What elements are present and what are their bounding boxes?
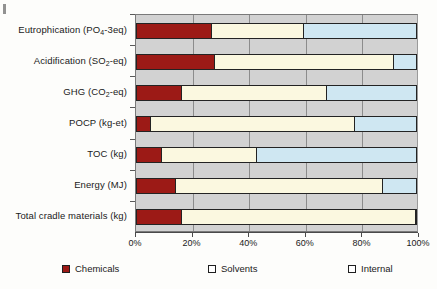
stacked-bar[interactable] bbox=[136, 147, 417, 163]
x-axis-tick bbox=[361, 233, 362, 237]
stacked-bar-chart: Eutrophication (PO4-3eq)Acidification (S… bbox=[0, 0, 437, 289]
bar-segment-solvents[interactable] bbox=[182, 86, 327, 100]
category-label: Total cradle materials (kg) bbox=[16, 208, 127, 224]
y-axis-tick bbox=[130, 107, 135, 108]
legend-item-solvents[interactable]: Solvents bbox=[208, 262, 257, 276]
x-axis-tick bbox=[305, 233, 306, 237]
category-label: Energy (MJ) bbox=[74, 177, 127, 193]
bar-segment-chemicals[interactable] bbox=[137, 24, 212, 38]
category-label: POCP (kg-et) bbox=[69, 115, 127, 131]
bar-segment-chemicals[interactable] bbox=[137, 55, 215, 69]
x-axis-tick-label: 0% bbox=[128, 238, 141, 248]
x-axis-tick-label: 80% bbox=[352, 238, 370, 248]
legend-swatch-chemicals-icon bbox=[62, 265, 70, 273]
x-axis: 0%20%40%60%80%100% bbox=[135, 232, 418, 239]
category-label: Eutrophication (PO4-3eq) bbox=[18, 22, 127, 38]
bar-segment-solvents[interactable] bbox=[162, 148, 257, 162]
bar-row bbox=[136, 147, 417, 163]
bar-segment-solvents[interactable] bbox=[212, 24, 304, 38]
bar-row bbox=[136, 209, 417, 225]
bar-row bbox=[136, 116, 417, 132]
x-axis-tick bbox=[248, 233, 249, 237]
y-axis-tick bbox=[130, 14, 135, 15]
x-axis-tick bbox=[135, 233, 136, 237]
bar-segment-solvents[interactable] bbox=[182, 210, 416, 224]
chart-legend: ChemicalsSolventsInternal bbox=[0, 262, 437, 282]
bar-segment-chemicals[interactable] bbox=[137, 117, 151, 131]
bar-segment-solvents[interactable] bbox=[151, 117, 355, 131]
bar-segment-internal[interactable] bbox=[327, 86, 416, 100]
category-axis-labels: Eutrophication (PO4-3eq)Acidification (S… bbox=[0, 14, 131, 232]
stacked-bar[interactable] bbox=[136, 116, 417, 132]
bar-segment-chemicals[interactable] bbox=[137, 210, 182, 224]
stacked-bar[interactable] bbox=[136, 178, 417, 194]
y-axis-tick bbox=[130, 76, 135, 77]
stacked-bar[interactable] bbox=[136, 54, 417, 70]
category-label: GHG (CO2-eq) bbox=[63, 84, 127, 100]
stacked-bar[interactable] bbox=[136, 23, 417, 39]
y-axis-tick bbox=[130, 201, 135, 202]
legend-item-chemicals[interactable]: Chemicals bbox=[62, 262, 119, 276]
x-axis-tick-label: 40% bbox=[239, 238, 257, 248]
bar-segment-solvents[interactable] bbox=[176, 179, 382, 193]
x-axis-tick bbox=[192, 233, 193, 237]
y-axis-tick bbox=[130, 139, 135, 140]
y-axis-tick bbox=[130, 45, 135, 46]
bar-segment-chemicals[interactable] bbox=[137, 86, 182, 100]
legend-swatch-internal-icon bbox=[348, 265, 356, 273]
bar-row bbox=[136, 23, 417, 39]
bar-segment-internal[interactable] bbox=[257, 148, 416, 162]
bar-row bbox=[136, 54, 417, 70]
bar-segment-internal[interactable] bbox=[383, 179, 416, 193]
x-axis-tick-label: 60% bbox=[296, 238, 314, 248]
bar-segment-chemicals[interactable] bbox=[137, 148, 162, 162]
x-axis-tick-label: 20% bbox=[183, 238, 201, 248]
bar-segment-internal[interactable] bbox=[355, 117, 416, 131]
legend-label: Internal bbox=[361, 263, 393, 274]
category-label: TOC (kg) bbox=[87, 146, 127, 162]
bar-segment-chemicals[interactable] bbox=[137, 179, 176, 193]
bar-row bbox=[136, 85, 417, 101]
category-label: Acidification (SO2-eq) bbox=[34, 53, 127, 69]
legend-label: Solvents bbox=[221, 263, 257, 274]
stacked-bar[interactable] bbox=[136, 209, 417, 225]
y-axis-tick bbox=[130, 170, 135, 171]
bar-segment-internal[interactable] bbox=[394, 55, 416, 69]
legend-item-internal[interactable]: Internal bbox=[348, 262, 393, 276]
bar-row bbox=[136, 178, 417, 194]
legend-swatch-solvents-icon bbox=[208, 265, 216, 273]
stacked-bar[interactable] bbox=[136, 85, 417, 101]
plot-area bbox=[135, 14, 418, 232]
x-axis-tick-label: 100% bbox=[406, 238, 429, 248]
legend-label: Chemicals bbox=[75, 263, 119, 274]
bar-segment-solvents[interactable] bbox=[215, 55, 394, 69]
x-axis-tick bbox=[418, 233, 419, 237]
bar-segment-internal[interactable] bbox=[304, 24, 416, 38]
